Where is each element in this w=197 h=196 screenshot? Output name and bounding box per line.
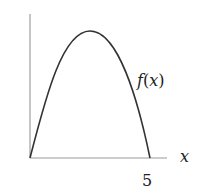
x-tick-5: 5 — [142, 171, 152, 190]
x-axis-label: x — [180, 147, 189, 166]
curve-f-of-x — [30, 31, 150, 158]
curve-label: f(x) — [136, 71, 164, 90]
function-plot: f(x) x 5 — [0, 0, 197, 196]
